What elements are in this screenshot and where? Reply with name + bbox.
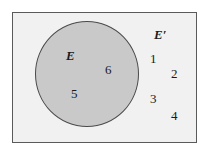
element-2: 2 (171, 67, 178, 80)
set-e-complement-label: E′ (154, 28, 166, 41)
set-e-circle (35, 21, 139, 127)
set-e-label: E (66, 49, 75, 62)
element-4: 4 (171, 109, 178, 122)
element-5: 5 (71, 87, 78, 100)
element-6: 6 (105, 63, 112, 76)
element-1: 1 (150, 52, 157, 65)
element-3: 3 (150, 92, 157, 105)
